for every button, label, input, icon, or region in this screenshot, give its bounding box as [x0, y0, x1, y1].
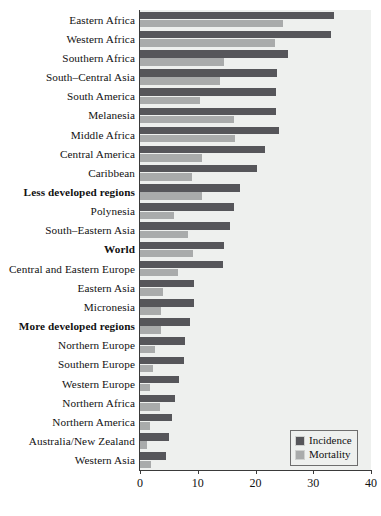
bar-incidence — [140, 414, 172, 421]
bar-row: Northern America — [0, 412, 381, 431]
bar-pair — [140, 48, 371, 67]
bar-row: Southern Africa — [0, 48, 381, 67]
category-label: Northern America — [52, 416, 135, 428]
category-label: Central and Eastern Europe — [9, 262, 135, 274]
bar-row: Southern Europe — [0, 355, 381, 374]
bar-pair — [140, 202, 371, 221]
bar-pair — [140, 10, 371, 29]
bar-pair — [140, 278, 371, 297]
bar-row: Less developed regions — [0, 182, 381, 201]
bar-mortality — [140, 77, 220, 84]
x-tick — [198, 470, 199, 474]
bar-incidence — [140, 299, 194, 306]
category-label: Less developed regions — [24, 186, 135, 198]
bar-rows-container: Eastern AfricaWestern AfricaSouthern Afr… — [0, 10, 381, 470]
bar-incidence — [140, 261, 223, 268]
bar-mortality — [140, 461, 151, 468]
bar-row: Central and Eastern Europe — [0, 259, 381, 278]
bar-incidence — [140, 222, 230, 229]
bar-pair — [140, 317, 371, 336]
bar-incidence — [140, 108, 276, 115]
legend-label-incidence: Incidence — [309, 434, 352, 448]
bar-incidence — [140, 184, 240, 191]
bar-incidence — [140, 127, 279, 134]
bar-incidence — [140, 31, 331, 38]
category-label: Western Europe — [62, 377, 135, 389]
bar-mortality — [140, 116, 234, 123]
bar-row: Melanesia — [0, 106, 381, 125]
bar-row: Northern Africa — [0, 393, 381, 412]
x-tick-label: 40 — [365, 476, 377, 491]
bar-incidence — [140, 452, 166, 459]
bar-mortality — [140, 384, 150, 391]
x-tick — [256, 470, 257, 474]
bar-row: Micronesia — [0, 297, 381, 316]
bar-pair — [140, 29, 371, 48]
bar-mortality — [140, 135, 235, 142]
bar-row: Caribbean — [0, 163, 381, 182]
category-label: Southern Europe — [58, 358, 135, 370]
bar-row: South America — [0, 87, 381, 106]
category-label: South–Eastern Asia — [45, 224, 135, 236]
bar-incidence — [140, 12, 334, 19]
bar-mortality — [140, 231, 188, 238]
bar-incidence — [140, 318, 190, 325]
bar-pair — [140, 374, 371, 393]
bar-mortality — [140, 365, 153, 372]
x-tick-label: 10 — [192, 476, 204, 491]
category-label: World — [104, 243, 135, 255]
bar-pair — [140, 259, 371, 278]
bar-mortality — [140, 269, 178, 276]
bar-pair — [140, 67, 371, 86]
bar-row: Eastern Asia — [0, 278, 381, 297]
legend-swatch-incidence — [295, 436, 305, 446]
bar-incidence — [140, 50, 288, 57]
bar-incidence — [140, 433, 169, 440]
bar-incidence — [140, 376, 179, 383]
bar-row: World — [0, 240, 381, 259]
bar-pair — [140, 106, 371, 125]
bar-pair — [140, 355, 371, 374]
legend-item-incidence: Incidence — [295, 434, 352, 448]
x-tick — [313, 470, 314, 474]
bar-pair — [140, 182, 371, 201]
legend: Incidence Mortality — [290, 430, 358, 466]
bar-mortality — [140, 39, 275, 46]
legend-swatch-mortality — [295, 450, 305, 460]
bar-incidence — [140, 88, 276, 95]
bar-pair — [140, 125, 371, 144]
bar-pair — [140, 393, 371, 412]
category-label: Central America — [60, 148, 135, 160]
bar-row: Middle Africa — [0, 125, 381, 144]
bar-incidence — [140, 165, 257, 172]
category-label: Northern Europe — [58, 339, 135, 351]
bar-mortality — [140, 288, 163, 295]
bar-row: Polynesia — [0, 202, 381, 221]
bar-row: Central America — [0, 144, 381, 163]
bar-row: South–Central Asia — [0, 67, 381, 86]
bar-mortality — [140, 326, 161, 333]
category-label: Eastern Africa — [69, 13, 135, 25]
x-tick-label: 20 — [250, 476, 262, 491]
bar-pair — [140, 240, 371, 259]
bar-pair — [140, 163, 371, 182]
category-label: Northern Africa — [62, 397, 135, 409]
bar-mortality — [140, 250, 193, 257]
bar-incidence — [140, 395, 175, 402]
bar-row: Western Europe — [0, 374, 381, 393]
bar-incidence — [140, 242, 224, 249]
bar-mortality — [140, 307, 161, 314]
bar-mortality — [140, 441, 147, 448]
bar-incidence — [140, 280, 194, 287]
bar-pair — [140, 412, 371, 431]
bar-pair — [140, 297, 371, 316]
x-tick — [371, 470, 372, 474]
category-label: South America — [67, 90, 135, 102]
category-label: Caribbean — [88, 167, 135, 179]
bar-pair — [140, 87, 371, 106]
category-label: Melanesia — [88, 109, 135, 121]
category-label: Micronesia — [84, 301, 135, 313]
bar-mortality — [140, 403, 160, 410]
category-label: Middle Africa — [71, 128, 135, 140]
x-tick-label: 0 — [137, 476, 143, 491]
